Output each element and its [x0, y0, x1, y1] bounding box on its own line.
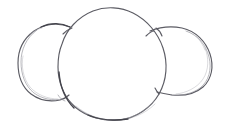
canvas-background — [0, 0, 228, 134]
sketch-drawing — [0, 0, 228, 134]
sketch-canvas — [0, 0, 228, 134]
